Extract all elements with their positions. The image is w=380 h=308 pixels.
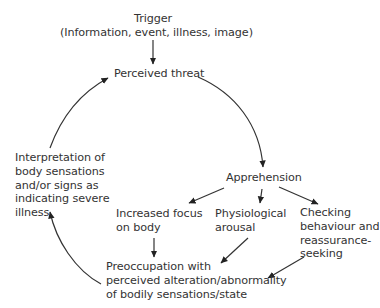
node-increased-focus: Increased focus on body (116, 207, 202, 235)
node-preoccupation-line: Preoccupation with (106, 260, 287, 274)
node-interpretation-line: and/or signs as (15, 179, 109, 193)
arrow-interpretation-to-threat (50, 78, 108, 148)
node-interpretation: Interpretation of body sensations and/or… (15, 151, 109, 220)
node-preoccupation-line: perceived alteration/abnormality (106, 274, 287, 288)
arrow-apprehension-to-checking (279, 187, 318, 204)
node-apprehension-line: Apprehension (226, 171, 302, 185)
node-preoccupation-line: of bodily sensations/state (106, 288, 287, 302)
node-interpretation-line: body sensations (15, 165, 109, 179)
node-increased-focus-line: on body (116, 221, 202, 235)
node-interpretation-line: illness (15, 206, 109, 220)
node-physiological-arousal-line: arousal (215, 221, 286, 235)
node-checking-behaviour: Checking behaviour and reassurance- seek… (300, 206, 380, 261)
node-interpretation-line: indicating severe (15, 192, 109, 206)
node-preoccupation: Preoccupation with perceived alteration/… (106, 260, 287, 301)
node-checking-behaviour-line: behaviour and (300, 220, 380, 234)
node-checking-behaviour-line: seeking (300, 247, 380, 261)
node-interpretation-line: Interpretation of (15, 151, 109, 165)
arrow-apprehension-to-focus (189, 188, 224, 203)
node-perceived-threat: Perceived threat (114, 67, 204, 81)
arrow-preoccupation-to-interpretation (50, 212, 101, 284)
node-physiological-arousal-line: Physiological (215, 207, 286, 221)
node-apprehension: Apprehension (226, 171, 302, 185)
node-trigger: Trigger (Information, event, illness, im… (60, 12, 246, 40)
health-anxiety-cycle-diagram: Trigger (Information, event, illness, im… (0, 0, 380, 308)
node-trigger-line: Trigger (60, 12, 246, 26)
node-trigger-line: (Information, event, illness, image) (60, 26, 246, 40)
node-checking-behaviour-line: reassurance- (300, 234, 380, 248)
node-physiological-arousal: Physiological arousal (215, 207, 286, 235)
node-increased-focus-line: Increased focus (116, 207, 202, 221)
node-perceived-threat-line: Perceived threat (114, 67, 204, 81)
node-checking-behaviour-line: Checking (300, 206, 380, 220)
arrow-threat-to-apprehension (198, 77, 263, 167)
arrow-apprehension-to-arousal (260, 189, 262, 203)
